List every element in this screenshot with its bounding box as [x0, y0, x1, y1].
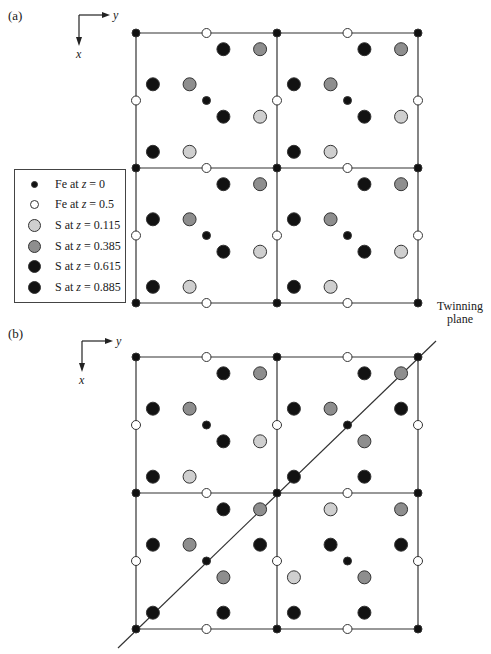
s-black-icon	[28, 281, 41, 294]
sulfur-atom	[287, 571, 300, 584]
diagram-canvas	[0, 0, 491, 654]
iron-atom-z0	[273, 29, 281, 37]
sulfur-atom	[254, 435, 267, 448]
sulfur-atom	[395, 402, 408, 415]
iron-atom-z05	[202, 353, 211, 362]
iron-atom-z0	[132, 29, 140, 37]
iron-atom-z05	[414, 96, 423, 105]
sulfur-atom	[254, 43, 267, 56]
iron-atom-z0	[344, 421, 352, 429]
sulfur-atom	[254, 503, 267, 516]
sulfur-atom	[395, 245, 408, 258]
iron-atom-z0	[203, 232, 211, 240]
sulfur-atom	[183, 280, 196, 293]
iron-atom-z0	[414, 353, 422, 361]
axis-arrow-b	[79, 338, 113, 372]
sulfur-atom	[358, 245, 371, 258]
sulfur-atom	[358, 43, 371, 56]
twinning-label-line2: plane	[430, 313, 490, 326]
sulfur-atom	[395, 367, 408, 380]
sulfur-atom	[358, 367, 371, 380]
iron-atom-z05	[343, 299, 352, 308]
sulfur-atom	[217, 43, 230, 56]
axis-arrow-a	[76, 12, 110, 46]
sulfur-atom	[358, 110, 371, 123]
sulfur-atom	[324, 503, 337, 516]
iron-atom-z0	[344, 97, 352, 105]
axis-y-label-a: y	[113, 8, 118, 23]
iron-atom-z0	[414, 299, 422, 307]
sulfur-atom	[287, 606, 300, 619]
sulfur-atom	[183, 470, 196, 483]
legend-label: S at z = 0.385	[55, 239, 121, 254]
legend-label: S at z = 0.615	[55, 259, 121, 274]
legend-label: Fe at z = 0	[55, 177, 105, 192]
iron-atom-z05	[343, 353, 352, 362]
sulfur-atom	[287, 280, 300, 293]
sulfur-atom	[183, 538, 196, 551]
iron-atom-z05	[202, 164, 211, 173]
legend-label: Fe at z = 0.5	[55, 197, 114, 212]
iron-atom-z05	[132, 421, 141, 430]
iron-atom-z0	[273, 489, 281, 497]
iron-atom-z05	[132, 96, 141, 105]
iron-atom-z05	[273, 96, 282, 105]
iron-atom-z0	[414, 625, 422, 633]
sulfur-atom	[324, 538, 337, 551]
iron-atom-z0	[273, 625, 281, 633]
sulfur-atom	[395, 178, 408, 191]
sulfur-atom	[217, 606, 230, 619]
unit-cell-grid-b	[118, 341, 436, 648]
fe-small-black-icon	[31, 181, 38, 188]
sulfur-atom	[254, 110, 267, 123]
iron-atom-z0	[344, 232, 352, 240]
sulfur-atom	[358, 470, 371, 483]
fe-open-icon	[30, 200, 39, 209]
iron-atom-z0	[273, 299, 281, 307]
twinning-plane-label: Twinning plane	[430, 300, 490, 326]
sulfur-atom	[183, 78, 196, 91]
sulfur-atom	[217, 178, 230, 191]
iron-atom-z05	[273, 231, 282, 240]
sulfur-atom	[324, 280, 337, 293]
iron-atom-z05	[343, 625, 352, 634]
iron-atom-z05	[414, 421, 423, 430]
iron-atom-z0	[132, 625, 140, 633]
sulfur-atom	[217, 367, 230, 380]
sulfur-atom	[358, 435, 371, 448]
iron-atom-z05	[343, 164, 352, 173]
sulfur-atom	[146, 402, 159, 415]
sulfur-atom	[287, 78, 300, 91]
iron-atom-z05	[132, 557, 141, 566]
iron-atom-z05	[273, 557, 282, 566]
sulfur-atom	[324, 402, 337, 415]
legend-item: S at z = 0.115	[15, 217, 127, 235]
legend: Fe at z = 0Fe at z = 0.5S at z = 0.115S …	[14, 169, 126, 303]
sulfur-atom	[146, 145, 159, 158]
sulfur-atom	[146, 280, 159, 293]
sulfur-atom	[395, 538, 408, 551]
sulfur-atom	[324, 213, 337, 226]
unit-cell-grid-a	[132, 29, 423, 308]
iron-atom-z05	[202, 29, 211, 38]
sulfur-atom	[254, 538, 267, 551]
sulfur-atom	[287, 402, 300, 415]
sulfur-atom	[183, 402, 196, 415]
sulfur-atom	[254, 245, 267, 258]
sulfur-atom	[146, 78, 159, 91]
legend-item: S at z = 0.615	[15, 258, 127, 276]
iron-atom-z05	[273, 421, 282, 430]
sulfur-atom	[358, 571, 371, 584]
iron-atom-z05	[132, 231, 141, 240]
iron-atom-z0	[273, 353, 281, 361]
iron-atom-z0	[203, 97, 211, 105]
sulfur-atom	[146, 470, 159, 483]
sulfur-atom	[287, 470, 300, 483]
sulfur-atom	[287, 213, 300, 226]
s-mid-gray-icon	[28, 240, 41, 253]
sulfur-atom	[254, 178, 267, 191]
sulfur-atom	[217, 110, 230, 123]
axis-y-label-b: y	[116, 334, 121, 349]
iron-atom-z0	[132, 299, 140, 307]
iron-atom-z05	[343, 489, 352, 498]
